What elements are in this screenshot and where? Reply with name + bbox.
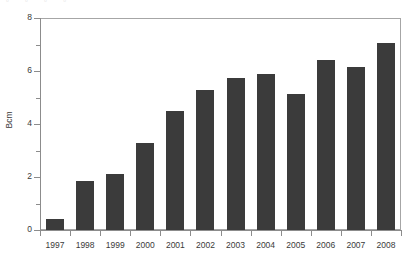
bar-2004	[257, 74, 275, 230]
x-tick-2006	[311, 231, 312, 236]
bar-2002	[196, 90, 214, 230]
x-tick-2004	[251, 231, 252, 236]
x-tick-2005	[281, 231, 282, 236]
bar-1998	[76, 181, 94, 230]
bar-2007	[347, 67, 365, 230]
x-tick-2003	[221, 231, 222, 236]
bar-2006	[317, 60, 335, 230]
x-tick-label-2008: 2008	[368, 240, 404, 250]
x-tick-2000	[130, 231, 131, 236]
bar-1999	[106, 174, 124, 230]
x-tick-1998	[70, 231, 71, 236]
bar-1997	[46, 219, 64, 230]
y-tick-label-6: 6	[8, 66, 32, 75]
chart-screenshot: ▫ ▫ ▫ ▫ 02468 Bcm 1997199819992000200120…	[0, 0, 413, 263]
bar-2001	[166, 111, 184, 230]
x-tick-2007	[341, 231, 342, 236]
y-axis-title: Bcm	[4, 100, 14, 140]
x-tick-1999	[100, 231, 101, 236]
y-tick-label-0: 0	[8, 225, 32, 234]
bar-series	[40, 18, 401, 230]
x-tick-2001	[160, 231, 161, 236]
bar-2005	[287, 94, 305, 230]
x-tick-1997	[40, 231, 41, 236]
y-tick-label-2: 2	[8, 172, 32, 181]
bar-2008	[377, 43, 395, 230]
bar-2003	[227, 78, 245, 230]
bar-2000	[136, 143, 154, 230]
x-tick-end	[401, 231, 402, 236]
y-tick-label-8: 8	[8, 13, 32, 22]
x-tick-2002	[190, 231, 191, 236]
x-tick-2008	[371, 231, 372, 236]
